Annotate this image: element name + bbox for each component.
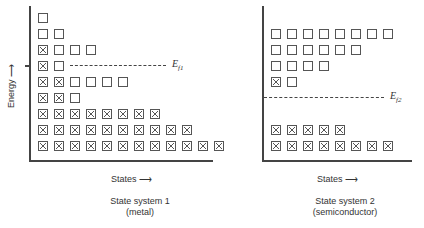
empty-state-box — [319, 29, 329, 39]
energy-axis-2 — [262, 6, 264, 162]
occupied-state-box — [303, 125, 313, 135]
empty-state-box — [303, 61, 313, 71]
empty-state-box — [287, 77, 297, 87]
states-axis-label-2: States ⟶ — [317, 174, 358, 184]
states-axis-2 — [262, 160, 412, 162]
empty-state-box — [335, 45, 345, 55]
fermi-level-label-2: Ef2 — [390, 90, 402, 104]
occupied-state-box — [271, 77, 281, 87]
empty-state-box — [319, 45, 329, 55]
empty-state-box — [271, 45, 281, 55]
fermi-level-line-2 — [264, 97, 384, 98]
occupied-state-box — [303, 141, 313, 151]
occupied-state-box — [287, 125, 297, 135]
occupied-state-box — [351, 141, 361, 151]
empty-state-box — [335, 29, 345, 39]
occupied-state-box — [271, 125, 281, 135]
empty-state-box — [351, 45, 361, 55]
panel-system2: Ef2 States ⟶ State system 2 (semiconduct… — [0, 0, 424, 228]
caption-system2: State system 2 (semiconductor) — [300, 196, 390, 218]
occupied-state-box — [319, 125, 329, 135]
empty-state-box — [287, 45, 297, 55]
empty-state-box — [303, 29, 313, 39]
empty-state-box — [287, 29, 297, 39]
occupied-state-box — [271, 141, 281, 151]
occupied-state-box — [287, 141, 297, 151]
occupied-state-box — [383, 141, 393, 151]
occupied-state-box — [335, 141, 345, 151]
empty-state-box — [351, 29, 361, 39]
empty-state-box — [271, 29, 281, 39]
occupied-state-box — [335, 125, 345, 135]
empty-state-box — [271, 61, 281, 71]
empty-state-box — [367, 29, 377, 39]
empty-state-box — [319, 61, 329, 71]
occupied-state-box — [319, 141, 329, 151]
empty-state-box — [287, 61, 297, 71]
empty-state-box — [303, 45, 313, 55]
occupied-state-box — [367, 141, 377, 151]
empty-state-box — [383, 29, 393, 39]
